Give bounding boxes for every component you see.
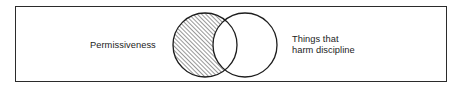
set-label-things-that-harm-discipline: Things thatharm discipline (292, 34, 355, 56)
set-label-permissiveness: Permissiveness (90, 40, 156, 51)
venn-diagram-figure: Permissiveness Things thatharm disciplin… (0, 0, 461, 91)
set-label-line-2: harm discipline (292, 45, 355, 55)
set-label-line-1: Things that (292, 34, 339, 44)
diagram-frame (15, 6, 447, 82)
